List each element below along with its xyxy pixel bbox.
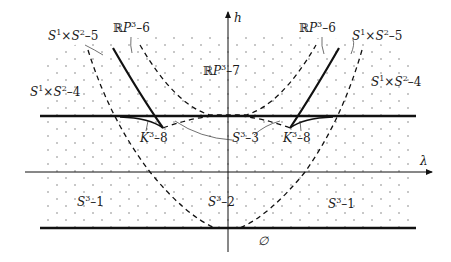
- h-axis-label: h: [234, 11, 242, 25]
- label-empty-set: ∅: [258, 234, 269, 248]
- label-s3-3: S3–3: [232, 130, 259, 145]
- label-s3-1-right: S3–1: [328, 196, 355, 211]
- label-s1s2-4-left: S1×S2–4: [30, 84, 81, 99]
- label-s1s2-5-right: S1×S2–5: [352, 28, 402, 43]
- label-k3-8-left: K3–8: [139, 130, 168, 145]
- label-s3-2: S3–2: [208, 194, 235, 209]
- label-s1s2-4-right: S1×S2–4: [371, 74, 422, 89]
- label-rp3-6-left: ℝP3–6: [113, 20, 150, 35]
- bifurcation-diagram: h λ S1×S2–5 ℝP3–6 ℝP3–6 S1×S2–5 ℝP3–7 S1…: [0, 0, 451, 262]
- label-k3-8-right: K3–8: [282, 130, 311, 145]
- label-s3-1-left: S3–1: [77, 194, 104, 209]
- label-s1s2-5-left: S1×S2–5: [48, 28, 98, 43]
- lambda-axis-label: λ: [419, 154, 428, 168]
- label-rp3-6-right: ℝP3–6: [299, 20, 336, 35]
